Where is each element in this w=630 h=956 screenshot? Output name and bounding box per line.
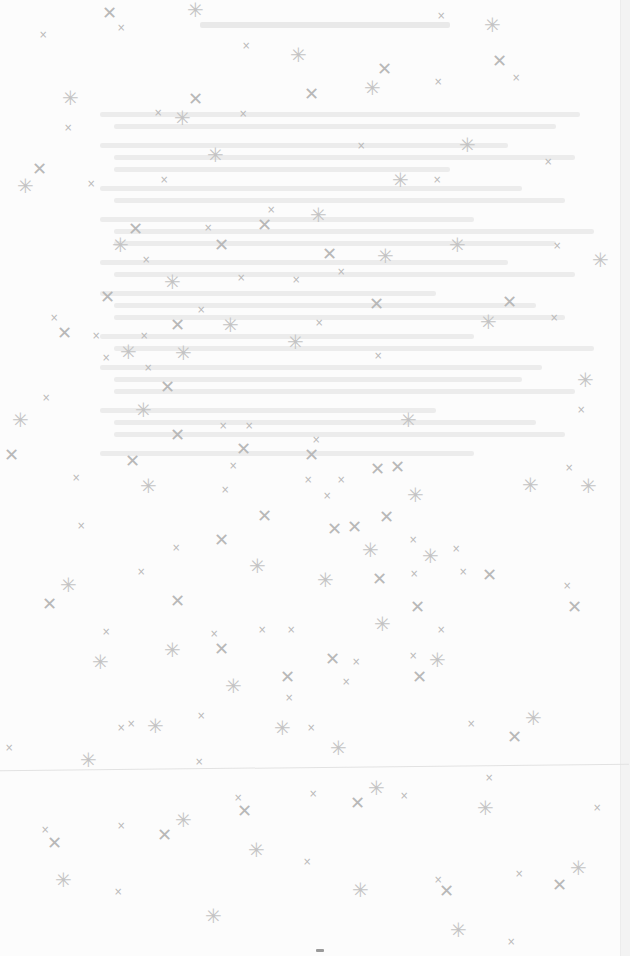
cross-icon: × (77, 521, 85, 531)
cross-icon: ✕ (492, 52, 507, 70)
cross-icon: × (337, 475, 345, 485)
cross-icon: × (195, 757, 203, 767)
sparkle-icon: ✳ (17, 176, 34, 196)
sparkle-icon: ✳ (112, 235, 129, 255)
cross-icon: ✕ (280, 668, 295, 686)
cross-icon: × (400, 791, 408, 801)
sparkle-icon: ✳ (164, 640, 181, 660)
cross-icon: ✕ (347, 518, 362, 536)
cross-icon: × (593, 803, 601, 813)
faded-text-line (114, 389, 575, 394)
cross-icon: × (285, 693, 293, 703)
sparkle-icon: ✳ (580, 476, 597, 496)
cross-icon: ✕ (482, 566, 497, 584)
cross-icon: × (127, 719, 135, 729)
cross-icon: × (337, 267, 345, 277)
list-item (100, 143, 580, 172)
sparkle-icon: ✳ (377, 246, 394, 266)
sparkle-icon: ✳ (317, 570, 334, 590)
cross-icon: × (374, 351, 382, 361)
sparkle-icon: ✳ (352, 880, 369, 900)
cross-icon: ✕ (370, 460, 385, 478)
cross-icon: × (410, 569, 418, 579)
faded-text-line (100, 186, 522, 191)
sparkle-icon: ✳ (422, 546, 439, 566)
sparkle-icon: ✳ (364, 78, 381, 98)
sparkle-icon: ✳ (55, 870, 72, 890)
sparkle-icon: ✳ (577, 370, 594, 390)
faded-text-line (114, 377, 522, 382)
cross-icon: × (467, 719, 475, 729)
cross-icon: × (102, 627, 110, 637)
list-item (100, 451, 580, 456)
cross-icon: × (5, 743, 13, 753)
cross-icon: ✕ (42, 595, 57, 613)
cross-icon: ✕ (412, 668, 427, 686)
cross-icon: × (144, 363, 152, 373)
cross-icon: ✕ (322, 245, 337, 263)
cross-icon: ✕ (57, 324, 72, 342)
list-item (100, 112, 580, 129)
cross-icon: × (563, 581, 571, 591)
cross-icon: × (357, 141, 365, 151)
faded-text-line (114, 198, 565, 203)
cross-icon: × (64, 123, 72, 133)
cross-icon: × (565, 463, 573, 473)
cross-icon: ✕ (125, 452, 140, 470)
right-page-edge (620, 0, 630, 956)
cross-icon: × (92, 331, 100, 341)
cross-icon: × (258, 625, 266, 635)
cross-icon: ✕ (214, 236, 229, 254)
sparkle-icon: ✳ (205, 906, 222, 926)
cross-icon: × (323, 491, 331, 501)
cross-icon: × (292, 275, 300, 285)
cross-icon: ✕ (236, 440, 251, 458)
cross-icon: ✕ (157, 826, 172, 844)
sparkle-icon: ✳ (207, 145, 224, 165)
cross-icon: ✕ (350, 794, 365, 812)
cross-icon: × (304, 475, 312, 485)
cross-icon: × (229, 461, 237, 471)
cross-icon: × (72, 473, 80, 483)
sparkle-icon: ✳ (368, 778, 385, 798)
cross-icon: × (577, 405, 585, 415)
cross-icon: × (154, 108, 162, 118)
sparkle-icon: ✳ (175, 343, 192, 363)
cross-icon: ✕ (100, 288, 115, 306)
cross-icon: × (544, 157, 552, 167)
cross-icon: × (287, 625, 295, 635)
list-item (100, 217, 580, 246)
cross-icon: × (197, 711, 205, 721)
cross-icon: × (550, 313, 558, 323)
cross-icon: × (307, 723, 315, 733)
cross-icon: ✕ (567, 598, 582, 616)
sparkle-icon: ✳ (248, 840, 265, 860)
sparkle-icon: ✳ (310, 205, 327, 225)
sparkle-icon: ✳ (480, 312, 497, 332)
sparkle-icon: ✳ (164, 272, 181, 292)
bottom-mark (316, 949, 324, 952)
cross-icon: ✕ (304, 446, 319, 464)
cross-icon: × (452, 544, 460, 554)
cross-icon: ✕ (47, 834, 62, 852)
sparkle-icon: ✳ (592, 250, 609, 270)
sparkle-icon: ✳ (330, 738, 347, 758)
cross-icon: × (117, 23, 125, 33)
cross-icon: ✕ (257, 507, 272, 525)
cross-icon: ✕ (214, 640, 229, 658)
sparkle-icon: ✳ (477, 798, 494, 818)
cross-icon: ✕ (379, 508, 394, 526)
sparkle-icon: ✳ (449, 235, 466, 255)
cross-icon: × (434, 77, 442, 87)
cross-icon: × (197, 305, 205, 315)
sparkle-icon: ✳ (362, 540, 379, 560)
cross-icon: × (245, 421, 253, 431)
sparkle-icon: ✳ (92, 652, 109, 672)
cross-icon: ✕ (214, 531, 229, 549)
cross-icon: × (433, 175, 441, 185)
faded-text-line (100, 260, 508, 265)
list-item (100, 186, 580, 203)
cross-icon: × (303, 857, 311, 867)
cross-icon: × (87, 179, 95, 189)
